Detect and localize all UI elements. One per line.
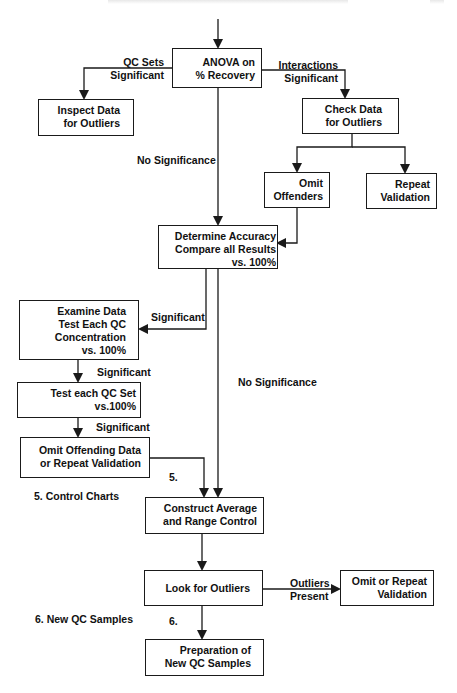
node-text: Inspect Data — [43, 104, 120, 117]
label-outliers-present: Outliers Present — [290, 577, 330, 603]
node-anova: ANOVA on % Recovery — [172, 48, 262, 88]
node-text: or Repeat Validation — [25, 457, 141, 470]
node-text: Look for Outliers — [149, 582, 250, 595]
node-text: Validation — [371, 191, 430, 204]
node-omit-offenders: Omit Offenders — [264, 172, 330, 208]
node-text: Construct Average — [150, 502, 257, 515]
label-text: Interactions — [276, 59, 338, 72]
arrow-omit-offenders-to-determine — [278, 208, 297, 243]
label-significant-test-set: Significant — [96, 421, 150, 434]
node-text: Check Data — [307, 103, 382, 116]
section-label-control-charts: 5. Control Charts — [34, 490, 119, 503]
label-significant-examine: Significant — [97, 366, 151, 379]
label-no-significance-anova: No Significance — [137, 154, 216, 167]
label-step-6: 6. — [169, 615, 178, 628]
node-text: and Range Control — [150, 515, 257, 528]
node-text: Test Each QC — [24, 318, 126, 331]
node-text: Repeat — [371, 178, 430, 191]
arrow-check-to-repeat-validation — [352, 147, 405, 172]
label-text: Significant — [151, 311, 205, 324]
node-text: Validation — [345, 588, 427, 601]
node-check-data: Check Data for Outliers — [302, 98, 399, 134]
label-significant-determine: Significant — [151, 311, 205, 324]
label-text: 5. — [169, 471, 178, 484]
label-text: QC Sets — [108, 56, 164, 69]
label-text: No Significance — [137, 154, 216, 167]
label-text: No Significance — [238, 376, 317, 389]
arrow-check-to-omit-offenders — [297, 134, 352, 171]
section-label-new-qc-samples: 6. New QC Samples — [35, 613, 133, 626]
node-examine-data: Examine Data Test Each QC Concentration … — [19, 300, 139, 360]
label-text: Significant — [97, 366, 151, 379]
node-repeat-validation: Repeat Validation — [366, 173, 437, 209]
node-text: Omit Offending Data — [25, 444, 141, 457]
label-text: Significant — [96, 421, 150, 434]
label-text: 6. — [169, 615, 178, 628]
node-text: for Outliers — [43, 117, 120, 130]
node-text: for Outliers — [307, 116, 382, 129]
label-text: Outliers — [290, 577, 330, 590]
node-text: Determine Accuracy — [163, 230, 276, 243]
node-text: vs.100% — [22, 400, 136, 413]
node-test-each-qc-set: Test each QC Set vs.100% — [17, 382, 141, 418]
node-text: Omit or Repeat — [345, 575, 427, 588]
node-text: Preparation of — [150, 644, 251, 657]
node-text: % Recovery — [177, 69, 255, 82]
node-text: vs. 100% — [24, 344, 126, 357]
node-inspect-data: Inspect Data for Outliers — [38, 99, 134, 136]
label-no-significance-determine: No Significance — [238, 376, 317, 389]
node-text: Test each QC Set — [22, 387, 136, 400]
label-text: Significant — [108, 69, 164, 82]
node-text: New QC Samples — [150, 657, 251, 670]
node-omit-or-repeat-validation: Omit or Repeat Validation — [340, 570, 434, 606]
label-text: Present — [290, 590, 330, 603]
node-text: Concentration — [24, 331, 126, 344]
node-text: Omit — [269, 177, 323, 190]
label-interactions-significant: Interactions Significant — [276, 59, 338, 85]
node-omit-offending-data: Omit Offending Data or Repeat Validation — [20, 437, 150, 478]
node-text: Offenders — [269, 190, 323, 203]
node-look-for-outliers: Look for Outliers — [144, 570, 263, 606]
flowchart-canvas: ANOVA on % Recovery Inspect Data for Out… — [0, 0, 457, 693]
node-text: ANOVA on — [177, 56, 255, 69]
node-determine-accuracy: Determine Accuracy Compare all Results v… — [158, 225, 278, 269]
node-text: Compare all Results — [163, 243, 276, 256]
label-text: Significant — [276, 72, 338, 85]
node-text: vs. 100% — [163, 256, 276, 269]
node-preparation-new-qc: Preparation of New QC Samples — [145, 639, 264, 676]
label-step-5: 5. — [169, 471, 178, 484]
label-text: 6. New QC Samples — [35, 613, 133, 626]
node-construct-control: Construct Average and Range Control — [145, 497, 264, 534]
label-qc-sets-significant: QC Sets Significant — [108, 56, 164, 82]
node-text: Examine Data — [24, 305, 126, 318]
label-text: 5. Control Charts — [34, 490, 119, 503]
